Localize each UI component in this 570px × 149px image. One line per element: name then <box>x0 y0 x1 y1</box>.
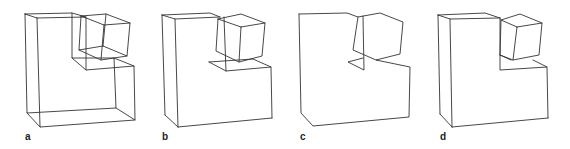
panel-label: a <box>25 132 31 142</box>
panel-label: c <box>300 132 306 142</box>
panel-a: a <box>0 0 142 149</box>
panel-c: c <box>285 0 427 149</box>
panel-b: b <box>140 0 282 149</box>
panel-label: d <box>440 132 446 142</box>
figure: a b c <box>0 0 570 149</box>
clean-drawing <box>425 0 567 149</box>
panel-label: b <box>162 132 168 142</box>
panel-d: d <box>425 0 567 149</box>
wireframe-drawing <box>0 0 142 149</box>
silhouette-drawing <box>285 0 427 149</box>
hidden-line-drawing <box>140 0 282 149</box>
